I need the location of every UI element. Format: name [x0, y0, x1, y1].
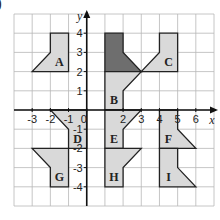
shape-label-h: H — [109, 170, 119, 184]
x-axis-name: x — [208, 113, 215, 127]
shape-label-g: G — [55, 170, 64, 184]
x-tick-label: -2 — [45, 113, 55, 125]
y-tick-label: -2 — [73, 142, 83, 154]
x-tick-label: -3 — [27, 113, 37, 125]
shape-label-i: I — [166, 170, 171, 184]
y-tick-label: 1 — [77, 85, 83, 97]
x-tick-label: 4 — [156, 113, 162, 125]
x-tick-label: 2 — [120, 113, 126, 125]
shape-label-e: E — [110, 132, 118, 146]
y-tick-label: -4 — [73, 181, 83, 193]
x-tick-label: 6 — [193, 113, 199, 125]
y-tick-label: 2 — [77, 66, 83, 78]
x-tick-label: 5 — [175, 113, 181, 125]
y-tick-label: -1 — [73, 123, 83, 135]
y-axis-name: y — [76, 9, 83, 23]
shape-label-f: F — [165, 132, 172, 146]
y-tick-label: -3 — [73, 162, 83, 174]
shape-label-b: B — [110, 93, 118, 107]
y-tick-label: 3 — [77, 46, 83, 58]
x-tick-label: 3 — [138, 113, 144, 125]
shape-label-c: C — [164, 55, 173, 69]
y-tick-label: 4 — [77, 27, 83, 39]
shape-label-a: A — [55, 55, 64, 69]
coordinate-grid-diagram: ACBDEFGHI-3-2-10234564321-1-2-3-4xy — [0, 0, 220, 220]
